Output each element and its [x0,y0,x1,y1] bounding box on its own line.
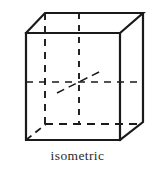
right-face-outline [120,13,143,140]
figure-caption: isometric [0,148,155,164]
top-face-outline [26,13,143,33]
cube-drawing [0,0,155,172]
visible-edges-group [26,13,143,140]
isometric-cube-figure: isometric [0,0,155,172]
hidden-bottom-left-receding-edge [26,124,46,140]
